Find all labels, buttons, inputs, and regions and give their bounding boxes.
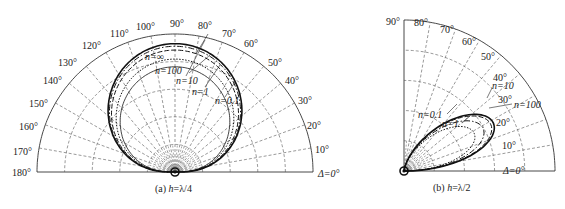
tick-10: 10°	[315, 144, 329, 155]
polar-figure: 180° 170° 160° 150° 140° 130° 120° 110° …	[0, 0, 565, 209]
tick-40: 40°	[285, 75, 299, 86]
chart-b	[400, 20, 555, 175]
grid-radial	[175, 148, 311, 172]
tick-60: 60°	[244, 38, 258, 49]
tick-170: 170°	[13, 146, 32, 157]
label-n-0.1: n=0.1	[418, 109, 442, 120]
tick-70: 70°	[222, 28, 236, 39]
tick-50: 50°	[481, 51, 495, 62]
grid-radial	[175, 36, 199, 172]
label-n-0.1: n=0.1	[215, 95, 239, 106]
tick-110: 110°	[110, 28, 129, 39]
tick-30: 30°	[298, 95, 312, 106]
label-n-1: n=1	[442, 118, 459, 129]
chart-a	[37, 34, 313, 176]
tick-20: 20°	[496, 117, 510, 128]
caption-a: (a) h=λ/4	[155, 183, 192, 195]
label-n-inf: n=∞	[145, 51, 164, 62]
tick-0: Δ=0°	[317, 168, 340, 179]
tick-50: 50°	[268, 57, 282, 68]
label-n-100: n=100	[514, 99, 541, 110]
grid-radial	[39, 148, 175, 172]
tick-0: Δ=0°	[502, 165, 525, 176]
tick-180: 180°	[12, 167, 31, 178]
chart-a-angle-labels: 180° 170° 160° 150° 140° 130° 120° 110° …	[12, 18, 340, 179]
tick-30: 30°	[498, 94, 512, 105]
tick-60: 60°	[462, 36, 476, 47]
tick-100: 100°	[136, 21, 155, 32]
tick-150: 150°	[29, 98, 48, 109]
figure: 180° 170° 160° 150° 140° 130° 120° 110° …	[0, 0, 565, 209]
tick-160: 160°	[19, 121, 38, 132]
caption-b: (b) h=λ/2	[433, 182, 470, 194]
tick-80: 80°	[198, 20, 212, 31]
tick-20: 20°	[307, 120, 321, 131]
tick-70: 70°	[440, 24, 454, 35]
label-n-10: n=10	[492, 80, 514, 91]
tick-90: 90°	[386, 16, 400, 27]
tick-80: 80°	[414, 17, 428, 28]
tick-90: 90°	[170, 18, 184, 29]
label-n-10: n=10	[176, 75, 198, 86]
tick-10: 10°	[502, 140, 516, 151]
tick-120: 120°	[82, 40, 101, 51]
tick-130: 130°	[58, 57, 77, 68]
label-n-1: n=1	[192, 86, 209, 97]
tick-140: 140°	[43, 75, 62, 86]
chart-b-series-labels: n=10 n=100 n=0.1 n=1	[418, 80, 541, 129]
